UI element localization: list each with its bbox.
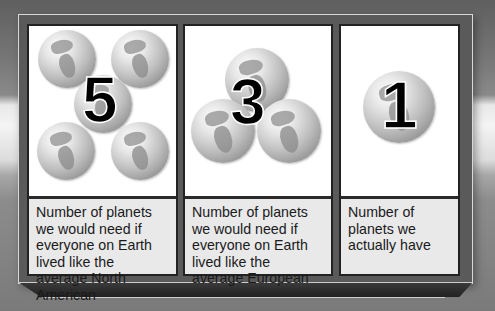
planet-count-number: 1 <box>381 72 418 138</box>
panel-caption: Number of planets we would need if every… <box>185 199 331 274</box>
panel-caption: Number of planets we would need if every… <box>29 199 176 274</box>
panel-european: 3 Number of planets we would need if eve… <box>183 24 333 276</box>
globe-icon <box>111 122 169 180</box>
panel-art-actual: 1 <box>341 26 458 199</box>
planet-count-number: 3 <box>230 70 266 134</box>
globe-icon <box>257 99 321 163</box>
panel-art-north-american: 5 <box>29 26 176 199</box>
panel-north-american: 5 Number of planets we would need if eve… <box>27 24 178 276</box>
frame-bevel-highlight <box>42 297 445 298</box>
panel-caption: Number of planets we actually have <box>341 199 458 274</box>
panel-actual: 1 Number of planets we actually have <box>339 24 460 276</box>
planet-count-number: 5 <box>82 68 118 132</box>
panel-art-european: 3 <box>185 26 331 199</box>
